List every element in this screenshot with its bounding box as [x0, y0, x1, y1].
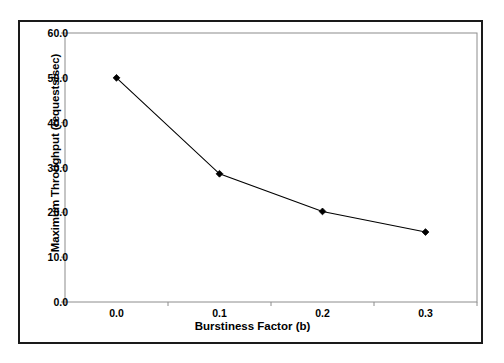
x-tick-label: 0.0 [87, 307, 147, 319]
chart-figure: 0.010.020.030.040.050.060.0 0.00.10.20.3… [0, 0, 504, 363]
line-chart-canvas [20, 22, 485, 346]
x-tick-label: 0.2 [293, 307, 353, 319]
figure-frame: 0.010.020.030.040.050.060.0 0.00.10.20.3… [18, 20, 483, 344]
y-tick-label: 0.0 [53, 297, 68, 308]
x-tick-label: 0.3 [396, 307, 456, 319]
y-axis-title: Maximum Throughput (requests/sec) [49, 33, 61, 273]
x-tick-label: 0.1 [190, 307, 250, 319]
x-axis-title: Burstiness Factor (b) [20, 320, 485, 332]
plot-area-border [65, 33, 477, 302]
x-axis-ticks [65, 302, 477, 306]
